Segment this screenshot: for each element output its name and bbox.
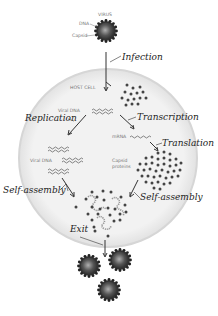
step-infection-label: Infection: [121, 52, 163, 62]
step-transcription-label: Transcription: [137, 112, 199, 122]
capsid-proteins-label-1: Capsid: [112, 158, 128, 163]
step-self-assembly-left-label: Self-assembly: [3, 185, 67, 195]
viral-replication-diagram: VIRUS DNA Capsid Infection HOST CELL Vir…: [0, 0, 218, 316]
mrna-label: mRNA: [112, 134, 127, 139]
capsid-label: Capsid: [72, 33, 88, 38]
virus-label: VIRUS: [98, 12, 112, 17]
capsid-proteins-label-2: proteins: [112, 164, 131, 169]
released-virion-icon: [97, 278, 121, 302]
released-virion-icon: [108, 248, 132, 272]
step-exit-label: Exit: [69, 224, 89, 234]
dna-label: DNA: [79, 21, 90, 26]
virus-icon: [94, 19, 118, 43]
viral-dna-left-label: Viral DNA: [30, 158, 53, 163]
host-cell-label: HOST CELL: [70, 85, 96, 90]
step-replication-label: Replication: [24, 113, 77, 123]
step-translation-label: Translation: [162, 138, 214, 148]
released-virion-icon: [77, 254, 101, 278]
step-self-assembly-right-label: Self-assembly: [140, 192, 204, 202]
